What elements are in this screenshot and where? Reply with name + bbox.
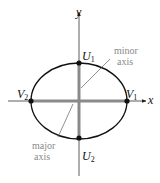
minor-axis-annotation-line2: axis xyxy=(117,56,133,67)
vertex-v1-label: V1 xyxy=(126,87,137,102)
vertex-u1-point xyxy=(76,60,81,65)
vertex-u2-point xyxy=(76,135,81,140)
y-axis-label: y xyxy=(75,5,82,19)
vertex-u1-label: U1 xyxy=(82,49,95,64)
minor-axis-annotation-line1: minor xyxy=(114,45,139,56)
ellipse-diagram: y x U1 U2 V1 V2 minor axis major axis xyxy=(0,0,160,183)
vertex-u2-label: U2 xyxy=(82,149,95,164)
major-axis-leader xyxy=(58,104,73,137)
major-axis-annotation-line1: major xyxy=(32,140,56,151)
x-axis-label: x xyxy=(147,93,154,107)
vertex-v2-label: V2 xyxy=(17,87,28,102)
major-axis-annotation-line2: axis xyxy=(34,151,50,162)
vertex-v2-point xyxy=(28,98,33,103)
